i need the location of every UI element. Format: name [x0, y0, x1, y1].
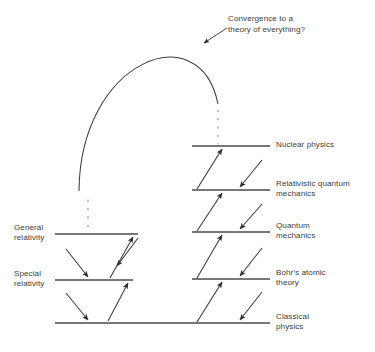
- dotted-continuations-group: [88, 110, 218, 232]
- level-label-nuclear-physics: Nuclear physics: [276, 140, 334, 150]
- transition-arrow-up-classical-to-special: [108, 283, 128, 321]
- transition-arrow-up-bohr-to-quantum: [197, 235, 222, 278]
- callout-arrow-group: [204, 28, 227, 43]
- transition-arrow-up-classical-to-bohr: [197, 282, 222, 322]
- transition-arrow-up-quantum-to-relativistic: [197, 193, 222, 231]
- level-label-bohrs-atomic-theory: Bohr's atomic theory: [276, 268, 326, 289]
- level-label-general-relativity: General relativity: [14, 223, 44, 244]
- convergence-annotation: Convergence to a theory of everything?: [228, 14, 305, 35]
- transition-arrow-up-relativistic-to-nuclear: [197, 149, 222, 189]
- convergence-arc-group: [79, 57, 218, 191]
- level-label-special-relativity: Special relativity: [14, 269, 44, 290]
- transition-arrow-down-bohr-to-classical: [240, 292, 262, 320]
- diagram-canvas: [0, 0, 375, 352]
- transition-arrow-up-special-to-general: [110, 237, 133, 278]
- callout-arrow-convergence-callout: [204, 28, 227, 43]
- transition-arrow-down-relativistic-to-quantum: [240, 204, 262, 229]
- level-label-quantum-mechanics: Quantum mechanics: [276, 221, 315, 242]
- level-label-classical-physics: Classical physics: [276, 312, 309, 333]
- physics-theory-hierarchy-diagram: Nuclear physicsRelativistic quantum mech…: [0, 0, 375, 352]
- level-lines-group: [55, 146, 270, 323]
- transition-arrow-down-quantum-to-bohr: [240, 248, 262, 276]
- transition-arrows-group: [66, 149, 262, 322]
- transition-arrow-down-nuclear-to-relativistic: [240, 160, 262, 187]
- level-label-relativistic-quantum-mechanics: Relativistic quantum mechanics: [276, 179, 350, 200]
- convergence-arc: [79, 57, 218, 191]
- transition-arrow-down-general-to-special: [66, 249, 88, 277]
- transition-arrow-down-special-to-classical: [66, 293, 88, 320]
- transition-arrow-down-general-right-to-special: [117, 238, 138, 266]
